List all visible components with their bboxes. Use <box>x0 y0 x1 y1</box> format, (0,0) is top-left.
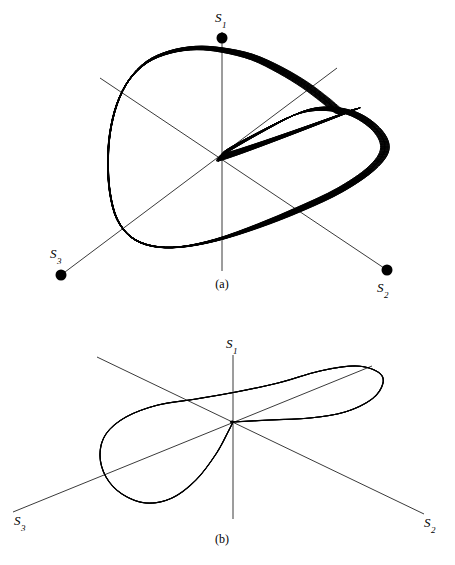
axis-endpoint-dot-S1 <box>217 33 228 44</box>
panel-b-caption: (b) <box>215 532 229 546</box>
phase-portrait-figure: S1S2S3 (a) S1S2S3 (b) <box>0 0 455 565</box>
axis-endpoint-dot-S3 <box>56 270 67 281</box>
panel-a-caption: (a) <box>215 277 228 291</box>
figure-canvas: S1S2S3 (a) S1S2S3 (b) <box>0 0 455 565</box>
axis-endpoint-dot-S2 <box>382 265 393 276</box>
